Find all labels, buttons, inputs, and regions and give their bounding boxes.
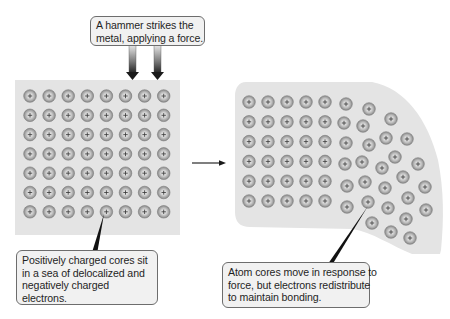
positive-ion-icon xyxy=(243,155,256,168)
positive-ion-icon xyxy=(62,167,75,180)
positive-ion-icon xyxy=(43,109,56,122)
positive-ion-icon xyxy=(412,158,425,171)
positive-ion-icon xyxy=(138,90,151,103)
positive-ion-icon xyxy=(363,139,376,152)
positive-ion-icon xyxy=(157,109,170,122)
positive-ion-icon xyxy=(119,167,132,180)
positive-ion-icon xyxy=(300,135,313,148)
positive-ion-icon xyxy=(401,133,414,146)
positive-ion-icon xyxy=(281,155,294,168)
positive-ion-icon xyxy=(157,148,170,161)
positive-ion-icon xyxy=(119,90,132,103)
positive-ion-icon xyxy=(157,186,170,199)
positive-ion-icon xyxy=(300,175,313,188)
positive-ion-icon xyxy=(389,151,402,164)
positive-ion-icon xyxy=(339,158,352,171)
positive-ion-icon xyxy=(24,128,37,141)
positive-ion-icon xyxy=(243,135,256,148)
positive-ion-icon xyxy=(380,132,393,145)
positive-ion-icon xyxy=(300,155,313,168)
positive-ion-icon xyxy=(300,195,313,208)
positive-ion-icon xyxy=(100,186,113,199)
positive-ion-icon xyxy=(24,167,37,180)
positive-ion-icon xyxy=(62,148,75,161)
positive-ion-icon xyxy=(43,186,56,199)
positive-ion-icon xyxy=(24,109,37,122)
positive-ion-icon xyxy=(24,90,37,103)
positive-ion-icon xyxy=(281,135,294,148)
positive-ion-icon xyxy=(138,148,151,161)
deformation-callout-line-2: force, but electrons redistribute xyxy=(228,279,364,292)
positive-ion-icon xyxy=(243,96,256,109)
hammer-callout-line-2: metal, applying a force. xyxy=(96,32,199,45)
positive-ion-icon xyxy=(157,206,170,219)
transition-arrow-icon xyxy=(192,160,226,166)
positive-ion-icon xyxy=(419,181,432,194)
positive-ion-icon xyxy=(81,206,94,219)
positive-ion-icon xyxy=(81,109,94,122)
hammer-force-arrows xyxy=(126,45,164,80)
positive-ion-icon xyxy=(138,167,151,180)
positive-ion-icon xyxy=(341,180,354,193)
positive-ion-icon xyxy=(281,175,294,188)
positive-ion-icon xyxy=(262,155,275,168)
positive-ion-icon xyxy=(157,128,170,141)
left-metal-panel xyxy=(15,80,180,235)
positive-ion-icon xyxy=(62,109,75,122)
positive-ion-icon xyxy=(366,217,379,230)
positive-ion-icon xyxy=(281,96,294,109)
positive-ion-icon xyxy=(81,128,94,141)
positive-ion-icon xyxy=(319,116,332,129)
positive-ion-icon xyxy=(319,175,332,188)
positive-ion-icon xyxy=(420,204,433,217)
hammer-callout-line-1: A hammer strikes the xyxy=(96,19,199,32)
positive-ion-icon xyxy=(385,113,398,126)
positive-ion-icon xyxy=(319,155,332,168)
positive-ion-icon xyxy=(119,206,132,219)
positive-ion-icon xyxy=(404,232,417,245)
positive-ion-icon xyxy=(43,148,56,161)
deformation-callout-line-3: to maintain bonding. xyxy=(228,291,364,304)
positive-ion-icon xyxy=(376,162,389,175)
positive-ion-icon xyxy=(243,175,256,188)
positive-ion-icon xyxy=(62,186,75,199)
positive-ion-icon xyxy=(100,148,113,161)
positive-ion-icon xyxy=(400,213,413,226)
positive-ion-icon xyxy=(138,128,151,141)
positive-ion-icon xyxy=(24,206,37,219)
positive-ion-icon xyxy=(24,148,37,161)
positive-ion-icon xyxy=(157,167,170,180)
positive-ion-icon xyxy=(81,167,94,180)
positive-ion-icon xyxy=(119,186,132,199)
positive-ion-icon xyxy=(119,128,132,141)
positive-ion-icon xyxy=(62,90,75,103)
positive-ion-icon xyxy=(43,167,56,180)
deformation-callout-line-1: Atom cores move in response to xyxy=(228,266,364,279)
positive-ion-icon xyxy=(338,117,351,130)
positive-ion-icon xyxy=(100,206,113,219)
positive-ion-icon xyxy=(81,186,94,199)
positive-ion-icon xyxy=(119,148,132,161)
positive-ion-icon xyxy=(319,96,332,109)
positive-ion-icon xyxy=(362,196,375,209)
positive-ion-icon xyxy=(359,176,372,189)
positive-ion-icon xyxy=(397,171,410,184)
lattice-callout-line-3: negatively charged xyxy=(22,279,152,292)
positive-ion-icon xyxy=(62,206,75,219)
positive-ion-icon xyxy=(363,103,376,116)
positive-ion-icon xyxy=(262,175,275,188)
positive-ion-icon xyxy=(100,128,113,141)
positive-ion-icon xyxy=(43,206,56,219)
positive-ion-icon xyxy=(100,109,113,122)
positive-ion-icon xyxy=(357,120,370,133)
positive-ion-icon xyxy=(119,109,132,122)
lattice-callout-line-2: in a sea of delocalized and xyxy=(22,267,152,280)
positive-ion-icon xyxy=(243,116,256,129)
down-arrow-icon xyxy=(126,45,139,80)
positive-ion-icon xyxy=(402,192,415,205)
positive-ion-icon xyxy=(262,116,275,129)
down-arrow-icon xyxy=(151,45,164,80)
positive-ion-icon xyxy=(43,90,56,103)
positive-ion-icon xyxy=(100,90,113,103)
positive-ion-icon xyxy=(340,98,353,111)
